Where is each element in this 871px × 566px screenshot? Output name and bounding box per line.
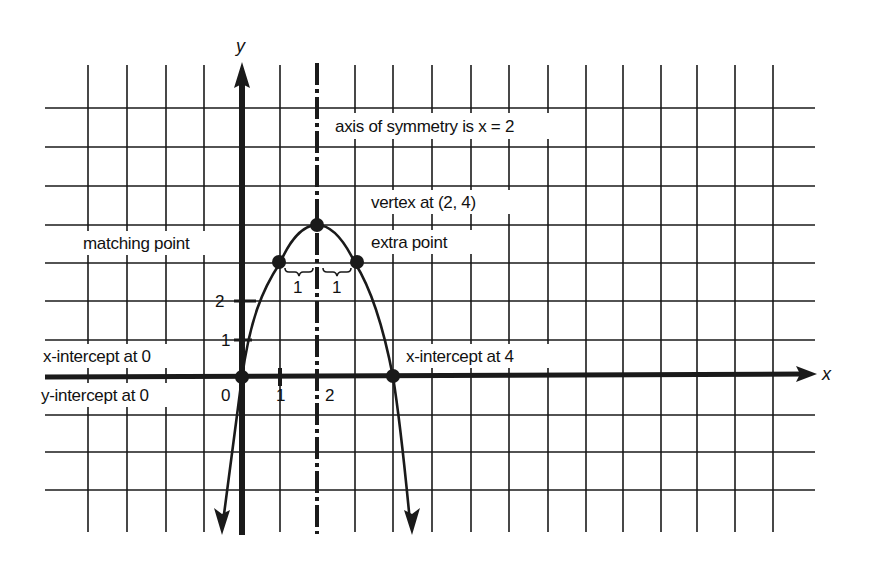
matching-point-label: matching point xyxy=(83,234,190,253)
y-tick-1: 1 xyxy=(221,331,230,350)
y-axis-label: y xyxy=(234,36,246,56)
origin-point xyxy=(235,370,249,384)
curve-arrow-right-icon xyxy=(404,508,420,535)
curve-arrow-left-icon xyxy=(214,508,230,535)
brace-right-label: 1 xyxy=(332,278,341,297)
x-tick-1: 1 xyxy=(276,386,285,405)
brace-right xyxy=(323,268,351,276)
vertex-point xyxy=(310,218,324,232)
x-tick-2: 2 xyxy=(325,386,334,405)
brace-left-label: 1 xyxy=(293,278,302,297)
parabola-graph: y x axis of symmetry is x = 2 vertex at … xyxy=(0,0,871,566)
x-tick-0: 0 xyxy=(221,386,230,405)
axis-of-symmetry-label: axis of symmetry is x = 2 xyxy=(335,117,514,136)
x-intercept-0-label: x-intercept at 0 xyxy=(43,347,151,366)
matching-point xyxy=(272,255,286,269)
x-intercept-4-point xyxy=(386,369,400,383)
vertex-label: vertex at (2, 4) xyxy=(371,193,476,212)
y-axis xyxy=(234,62,256,535)
y-tick-2: 2 xyxy=(215,292,224,311)
extra-point xyxy=(350,255,364,269)
x-intercept-4-label: x-intercept at 4 xyxy=(406,347,514,366)
y-intercept-0-label: y-intercept at 0 xyxy=(41,386,149,405)
brace-left xyxy=(285,268,313,276)
extra-point-label: extra point xyxy=(371,233,448,252)
x-axis-label: x xyxy=(821,364,832,384)
